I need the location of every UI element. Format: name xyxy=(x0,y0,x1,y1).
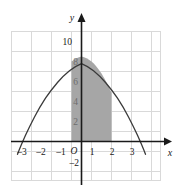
x-tick-label-neg1: –1 xyxy=(55,147,66,157)
y-tick-label-6: 6 xyxy=(73,77,78,87)
y-axis-arrow xyxy=(78,13,86,22)
y-tick-label-2: 2 xyxy=(73,117,78,127)
x-tick-label-neg2: –2 xyxy=(35,147,46,157)
y-axis-label: y xyxy=(69,12,75,23)
x-tick-label-3: 3 xyxy=(130,147,135,157)
graph-figure: x y O –3 –2 –1 1 2 3 10 8 6 4 2 –2 xyxy=(0,0,183,191)
y-tick-label-neg2: –2 xyxy=(69,158,80,168)
x-tick-label-1: 1 xyxy=(90,147,95,157)
x-tick-label-2: 2 xyxy=(110,147,115,157)
y-tick-label-4: 4 xyxy=(73,97,78,107)
origin-label: O xyxy=(71,146,78,156)
x-axis-arrow xyxy=(164,138,172,146)
y-tick-label-10: 10 xyxy=(63,37,73,47)
coordinate-plot: x y O –3 –2 –1 1 2 3 10 8 6 4 2 –2 xyxy=(0,0,183,191)
x-axis-label: x xyxy=(167,147,173,158)
y-tick-label-8: 8 xyxy=(73,57,78,67)
x-tick-label-neg3: –3 xyxy=(16,147,27,157)
